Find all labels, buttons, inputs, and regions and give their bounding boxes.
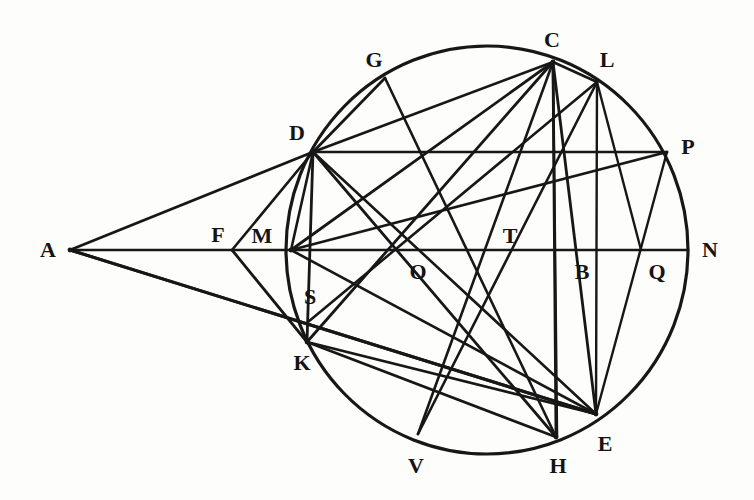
line-L-Q <box>597 82 641 250</box>
geometry-canvas <box>0 0 754 500</box>
line-A-D <box>70 152 313 250</box>
point-label-s: S <box>304 286 316 308</box>
line-D-C <box>313 62 553 152</box>
point-label-g: G <box>365 49 382 71</box>
vertex-dot-a <box>68 248 73 253</box>
point-label-n: N <box>702 239 718 261</box>
vertex-dot-e <box>594 412 599 417</box>
point-label-b: B <box>575 261 590 283</box>
line-C-M <box>291 62 553 250</box>
line-F-K <box>232 250 307 342</box>
point-label-h: H <box>549 455 566 477</box>
point-label-f: F <box>211 224 224 246</box>
chord-lines-group <box>70 62 688 437</box>
point-label-k: K <box>293 352 310 374</box>
point-label-d: D <box>289 122 305 144</box>
point-label-v: V <box>408 455 424 477</box>
geometry-figure: ABCDEFGHKLMNOPQSTV <box>0 0 754 500</box>
line-C-K <box>307 62 553 342</box>
vertex-dot-h <box>554 435 559 440</box>
line-M-P-diag <box>291 152 667 250</box>
point-label-a: A <box>40 239 56 261</box>
vertex-dot-c <box>551 60 556 65</box>
line-L-E <box>596 82 597 414</box>
point-label-e: E <box>598 433 613 455</box>
point-label-t: T <box>503 225 518 247</box>
line-D-G <box>313 78 385 152</box>
point-label-m: M <box>252 225 273 247</box>
point-label-p: P <box>681 136 694 158</box>
vertex-dot-d <box>311 150 316 155</box>
line-K-E-chord <box>307 342 596 414</box>
vertex-dot-k <box>305 340 310 345</box>
vertex-dot-m <box>289 248 294 253</box>
point-label-c: C <box>544 29 560 51</box>
point-label-q: Q <box>648 261 665 283</box>
point-label-o: O <box>409 261 426 283</box>
point-label-l: L <box>600 49 615 71</box>
